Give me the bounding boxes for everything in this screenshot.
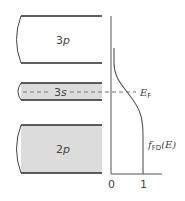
function-label: fFD(E) xyxy=(147,139,176,152)
band-2p: 2p xyxy=(17,125,103,173)
fermi-dirac-curve xyxy=(114,48,143,174)
band-diagram: 3p 3s EF 2p 0 1 fFD(E) xyxy=(0,0,185,201)
band-3p: 3p xyxy=(17,16,103,63)
band-label-3p: 3p xyxy=(56,34,70,47)
tick-label-0: 0 xyxy=(108,178,115,191)
band-label-2p: 2p xyxy=(56,143,70,156)
band-label-3s: 3s xyxy=(54,86,67,99)
fermi-level-label: EF xyxy=(139,87,151,100)
tick-label-1: 1 xyxy=(140,178,147,191)
